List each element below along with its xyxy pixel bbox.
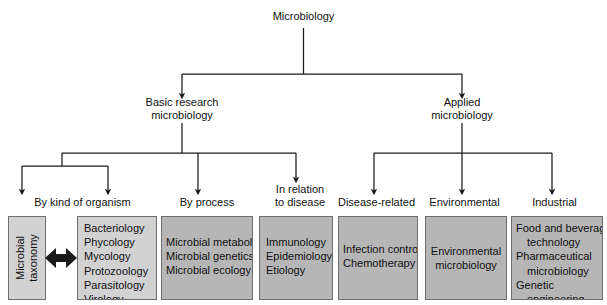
heading-in-relation-to-disease: In relation to disease xyxy=(258,183,342,208)
list-item: Infection control xyxy=(343,242,417,256)
list-item: Mycology xyxy=(84,249,156,263)
list-item: Chemotherapy xyxy=(343,256,417,270)
microbiology-classification-diagram: Microbiology Basic research microbiology… xyxy=(0,0,607,305)
box-process-list: Microbial metabolism Microbial genetics … xyxy=(161,216,253,300)
list-item: Parasitology xyxy=(84,278,156,292)
box-microbial-taxonomy: Microbial taxonomy xyxy=(8,216,46,300)
list-item: Virology xyxy=(84,292,156,300)
list-item: Etiology xyxy=(266,263,332,277)
list-item: microbiology xyxy=(516,264,602,278)
node-microbiology: Microbiology xyxy=(248,10,359,23)
list-item: Phycology xyxy=(84,235,156,249)
list-item: Bacteriology xyxy=(84,221,156,235)
list-item: Pharmaceutical xyxy=(516,249,602,263)
box-environmental-list: Environmental microbiology xyxy=(425,216,507,300)
heading-disease-related: Disease-related xyxy=(334,196,419,209)
list-item: technology xyxy=(516,235,602,249)
heading-by-process: By process xyxy=(158,196,256,209)
list-item: engineering xyxy=(516,292,602,300)
box-disease-relation-list: Immunology Epidemiology Etiology xyxy=(259,216,333,300)
box-organism-list: Bacteriology Phycology Mycology Protozoo… xyxy=(77,216,157,300)
box-microbial-taxonomy-label: Microbial taxonomy xyxy=(14,234,40,282)
list-item: Microbial genetics xyxy=(166,249,252,263)
heading-environmental: Environmental xyxy=(422,196,507,209)
node-applied-microbiology: Applied microbiology xyxy=(407,96,517,122)
node-basic-research-microbiology: Basic research microbiology xyxy=(127,96,237,122)
list-item: Protozoology xyxy=(84,264,156,278)
heading-by-kind-of-organism: By kind of organism xyxy=(8,196,157,209)
list-item: Environmental xyxy=(431,244,501,258)
list-item: Microbial metabolism xyxy=(166,235,252,249)
heading-industrial: Industrial xyxy=(512,196,597,209)
list-item: Microbial ecology xyxy=(166,263,252,277)
list-item: Food and beverage xyxy=(516,221,602,235)
list-item: Genetic xyxy=(516,278,602,292)
list-item: microbiology xyxy=(435,258,497,272)
list-item: Immunology xyxy=(266,235,332,249)
box-disease-related-list: Infection control Chemotherapy xyxy=(338,216,418,300)
double-headed-arrow-icon xyxy=(44,244,78,272)
list-item: Epidemiology xyxy=(266,249,332,263)
box-industrial-list: Food and beverage technology Pharmaceuti… xyxy=(511,216,603,300)
